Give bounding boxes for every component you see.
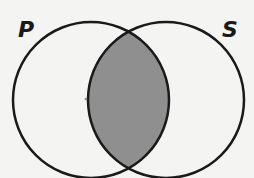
venn-diagram: P S <box>0 0 254 178</box>
label-s: S <box>222 17 238 42</box>
stray-dot <box>85 98 88 101</box>
venn-svg: P S <box>0 0 254 178</box>
label-p: P <box>18 17 34 42</box>
